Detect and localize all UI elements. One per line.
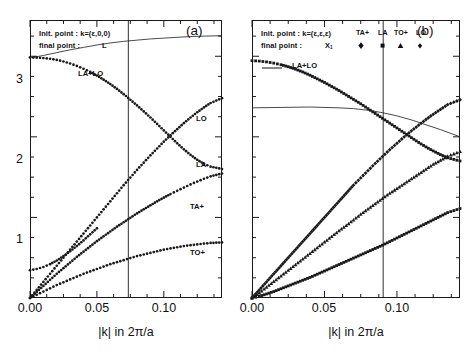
legend-name-to-plus: TO+ bbox=[394, 29, 408, 36]
panel-a: Init. point : k=(ε,0,0) final point : L … bbox=[30, 20, 222, 298]
panel-a-axis-title: |k| in 2π/a bbox=[98, 325, 153, 339]
y-tick-2: 2 bbox=[7, 152, 23, 166]
panel-b-final-point: final point : bbox=[261, 41, 302, 50]
legend-name-ta-plus: TA+ bbox=[356, 29, 369, 36]
y-tick-3: 3 bbox=[7, 72, 23, 86]
panel-b-plot bbox=[252, 20, 460, 298]
series-line-la-lo bbox=[252, 107, 460, 137]
series-markers-lo bbox=[29, 97, 224, 300]
panel-a-init-point: Init. point : k=(ε,0,0) bbox=[39, 29, 110, 38]
legend-name-lo: LO bbox=[416, 29, 426, 36]
legend-marker-row bbox=[352, 40, 436, 52]
panel-b-final-value: X1 bbox=[325, 41, 333, 50]
panel-b-x-tick-0: 0.00 bbox=[240, 301, 264, 315]
panel-a-final-value: L bbox=[102, 41, 107, 50]
panel-a-final-point: final point : bbox=[39, 41, 80, 50]
panel-a-x-tick-1: 0.05 bbox=[85, 301, 109, 315]
series-markers-ta- bbox=[250, 149, 462, 299]
phonon-dispersion-figure: Init. point : k=(ε,0,0) final point : L … bbox=[0, 0, 475, 355]
legend-marker-diamond-lo bbox=[418, 43, 422, 48]
legend-name-la: LA bbox=[378, 29, 388, 36]
series-markers-ta- bbox=[29, 172, 224, 299]
panel-a-x-tick-0: 0.00 bbox=[18, 301, 42, 315]
curve-label-la: LA bbox=[196, 160, 206, 169]
panel-a-tag: (a) bbox=[186, 23, 203, 38]
y-tick-1: 1 bbox=[7, 232, 23, 246]
panel-b: Init. point : k=(ε,ε,ε) final point : X1… bbox=[252, 20, 460, 298]
series-markers-to- bbox=[251, 207, 462, 299]
legend-marker-diamond-ta-plus bbox=[358, 42, 363, 49]
curve-label-ta-plus: TA+ bbox=[190, 202, 204, 211]
curve-label-to-plus: TO+ bbox=[190, 248, 205, 257]
curve-label-lo: LO bbox=[196, 114, 207, 123]
panel-b-axis-title: |k| in 2π/a bbox=[328, 325, 383, 339]
legend-marker-square-la bbox=[381, 44, 385, 48]
panel-a-la-lo-label: LA+LO bbox=[78, 69, 103, 78]
panel-b-la-lo-label: LA+LO bbox=[292, 61, 317, 70]
panel-a-x-tick-2: 0.10 bbox=[152, 301, 176, 315]
panel-b-x-tick-1: 0.05 bbox=[312, 301, 336, 315]
series-markers-lo bbox=[250, 98, 462, 300]
panel-b-x-tick-2: 0.10 bbox=[385, 301, 409, 315]
legend-line-la-lo bbox=[260, 64, 286, 72]
panel-b-init-point: Init. point : k=(ε,ε,ε) bbox=[261, 29, 331, 38]
series-markers-la bbox=[251, 59, 462, 162]
legend-marker-triangle-to-plus bbox=[398, 43, 404, 48]
